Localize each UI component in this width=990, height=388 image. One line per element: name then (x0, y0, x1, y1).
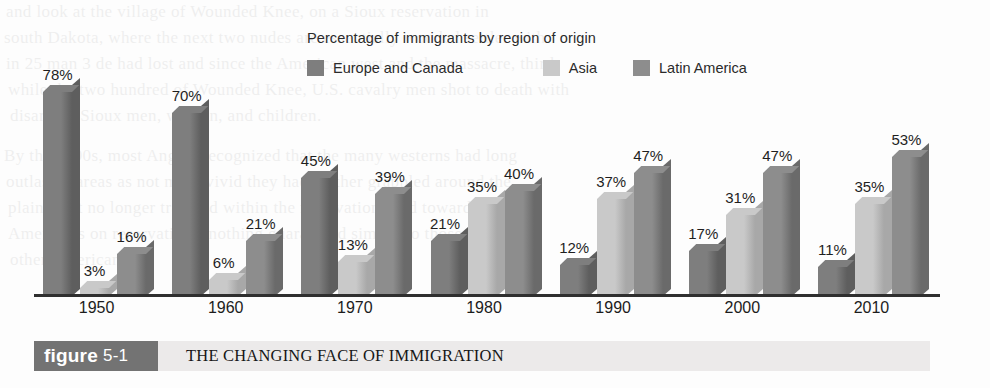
bar-1970-europe-and-canada[interactable]: 45% (301, 178, 330, 296)
figure-tag-word: figure (44, 345, 98, 367)
bar-side-face (72, 78, 80, 296)
bar-top-face (560, 258, 596, 265)
bar-value-label: 47% (762, 147, 792, 164)
bar-body (505, 191, 534, 296)
legend-swatch-icon (543, 60, 560, 76)
bar-1970-latin-america[interactable]: 39% (375, 194, 404, 296)
bar-2010-latin-america[interactable]: 53% (892, 157, 921, 296)
bar-body (375, 194, 404, 296)
bar-body (117, 254, 146, 296)
bar-value-label: 3% (84, 262, 106, 279)
bar-value-label: 78% (43, 66, 73, 83)
legend-item-asia[interactable]: Asia (543, 60, 597, 76)
legend-label: Asia (569, 60, 597, 76)
legend-label: Latin America (659, 60, 747, 76)
figure-tag-number: 5-1 (103, 346, 128, 366)
bar-body (855, 204, 884, 296)
x-tick-1980: 1980 (466, 299, 502, 317)
bar-1970-asia[interactable]: 13% (338, 262, 367, 296)
bar-2000-latin-america[interactable]: 47% (763, 173, 792, 296)
bar-value-label: 31% (725, 189, 755, 206)
bar-body (763, 173, 792, 296)
bar-side-face (755, 201, 763, 296)
bleedthrough-line: and look at the village of Wounded Knee,… (6, 2, 489, 22)
bar-1980-europe-and-canada[interactable]: 21% (431, 241, 460, 296)
bar-side-face (921, 143, 929, 296)
bar-value-label: 6% (213, 254, 235, 271)
bar-body (560, 265, 589, 296)
legend-swatch-icon (633, 60, 650, 76)
bar-2010-asia[interactable]: 35% (855, 204, 884, 296)
bar-value-label: 12% (559, 239, 589, 256)
bar-body (246, 241, 275, 296)
x-tick-1960: 1960 (208, 299, 244, 317)
bar-value-label: 13% (338, 236, 368, 253)
bar-body (172, 113, 201, 296)
legend-item-latin-america[interactable]: Latin America (633, 60, 747, 76)
bar-value-label: 40% (504, 165, 534, 182)
x-tick-2000: 2000 (724, 299, 760, 317)
legend-label: Europe and Canada (333, 60, 463, 76)
bar-value-label: 21% (430, 215, 460, 232)
bar-side-face (238, 266, 246, 296)
bar-group-1960: 70%6%21% (172, 60, 275, 296)
bar-body (301, 178, 330, 296)
x-axis-line (34, 294, 940, 297)
bar-body (338, 262, 367, 296)
bar-body (689, 251, 718, 296)
bar-side-face (626, 185, 634, 296)
bar-body (634, 173, 663, 296)
bar-1950-europe-and-canada[interactable]: 78% (43, 92, 72, 296)
bar-side-face (497, 190, 505, 296)
bar-value-label: 70% (172, 87, 202, 104)
bar-side-face (201, 99, 209, 296)
bar-value-label: 53% (891, 131, 921, 148)
bar-1980-latin-america[interactable]: 40% (505, 191, 534, 296)
legend-swatch-icon (307, 60, 324, 76)
bar-value-label: 21% (246, 215, 276, 232)
bar-group-2000: 17%31%47% (689, 60, 792, 296)
bar-body (818, 267, 847, 296)
bar-value-label: 35% (467, 178, 497, 195)
bar-group-1950: 78%3%16% (43, 60, 146, 296)
bar-value-label: 16% (117, 228, 147, 245)
bar-group-2010: 11%35%53% (818, 60, 921, 296)
bar-side-face (330, 164, 338, 296)
bar-1990-europe-and-canada[interactable]: 12% (560, 265, 589, 296)
chart-legend: Europe and CanadaAsiaLatin America (307, 58, 747, 78)
bar-1960-europe-and-canada[interactable]: 70% (172, 113, 201, 296)
bar-value-label: 45% (301, 152, 331, 169)
chart-plot-area: 78%3%16%70%6%21%45%13%39%21%35%40%12%37%… (34, 60, 938, 296)
x-axis-tick-labels: 1950196019701980199020002010 (34, 299, 940, 325)
bar-body (468, 204, 497, 296)
bar-1990-asia[interactable]: 37% (597, 199, 626, 296)
bar-2010-europe-and-canada[interactable]: 11% (818, 267, 847, 296)
bar-value-label: 39% (375, 168, 405, 185)
bar-body (892, 157, 921, 296)
bar-body (43, 92, 72, 296)
bar-1980-asia[interactable]: 35% (468, 204, 497, 296)
x-tick-1970: 1970 (337, 299, 373, 317)
bar-value-label: 35% (854, 178, 884, 195)
bar-value-label: 17% (688, 225, 718, 242)
bar-1990-latin-america[interactable]: 47% (634, 173, 663, 296)
bar-body (597, 199, 626, 296)
bar-2000-europe-and-canada[interactable]: 17% (689, 251, 718, 296)
bar-body (431, 241, 460, 296)
legend-item-europe-and-canada[interactable]: Europe and Canada (307, 60, 463, 76)
bar-side-face (534, 177, 542, 296)
bar-value-label: 11% (818, 241, 847, 258)
figure-page: and look at the village of Wounded Knee,… (0, 0, 990, 388)
figure-number-tag: figure 5-1 (34, 341, 158, 371)
bar-body (726, 215, 755, 296)
bar-group-1980: 21%35%40% (431, 60, 534, 296)
bar-group-1990: 12%37%47% (560, 60, 663, 296)
bar-side-face (404, 180, 412, 296)
bar-1960-latin-america[interactable]: 21% (246, 241, 275, 296)
bar-side-face (663, 159, 671, 296)
bar-group-1970: 45%13%39% (301, 60, 404, 296)
bar-value-label: 47% (633, 147, 663, 164)
bar-2000-asia[interactable]: 31% (726, 215, 755, 296)
bar-1950-latin-america[interactable]: 16% (117, 254, 146, 296)
x-tick-2010: 2010 (854, 299, 890, 317)
